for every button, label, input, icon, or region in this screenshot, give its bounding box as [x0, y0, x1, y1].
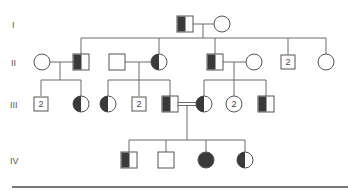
individual-iii-5-carrier-male[interactable]: [162, 96, 178, 112]
generation-label-ii: II: [11, 58, 16, 68]
individual-ii-3-male[interactable]: [109, 54, 125, 70]
individual-iii-3-carrier-female[interactable]: [100, 96, 116, 112]
individual-iv-2-male[interactable]: [158, 152, 174, 168]
individual-iv-3-affected-female[interactable]: [198, 152, 214, 168]
individual-ii-8-female[interactable]: [318, 54, 334, 70]
pedigree-chart: I II III IV: [0, 0, 348, 191]
count-label: 2: [38, 99, 43, 109]
count-label: 2: [285, 57, 290, 67]
generation-label-iv: IV: [10, 156, 19, 166]
individual-iii-7-female-group[interactable]: 2: [226, 96, 242, 112]
individual-iii-2-carrier-female[interactable]: [73, 96, 89, 112]
count-label: 2: [231, 99, 236, 109]
individual-ii-1-female[interactable]: [34, 54, 50, 70]
count-label: 2: [136, 99, 141, 109]
individual-iii-1-male-group[interactable]: 2: [34, 97, 48, 111]
individual-iv-4-carrier-female[interactable]: [237, 152, 253, 168]
individual-iv-1-carrier-male[interactable]: [121, 152, 137, 168]
individual-ii-4-carrier-female[interactable]: [151, 54, 167, 70]
individual-ii-2-carrier-male[interactable]: [73, 54, 89, 70]
individual-iii-6-carrier-female[interactable]: [196, 96, 212, 112]
individual-i-2-female[interactable]: [214, 16, 230, 32]
individual-iii-8-carrier-male[interactable]: [258, 96, 274, 112]
mating-line-i: [81, 24, 326, 55]
individual-ii-6-female[interactable]: [246, 54, 262, 70]
individual-i-1-carrier-male[interactable]: [177, 16, 193, 32]
individual-ii-7-male-group[interactable]: 2: [281, 55, 295, 69]
individual-iii-4-male-group[interactable]: 2: [132, 97, 146, 111]
individual-ii-5-carrier-male[interactable]: [207, 54, 223, 70]
generation-label-i: I: [12, 20, 15, 30]
generation-label-iii: III: [10, 100, 18, 110]
